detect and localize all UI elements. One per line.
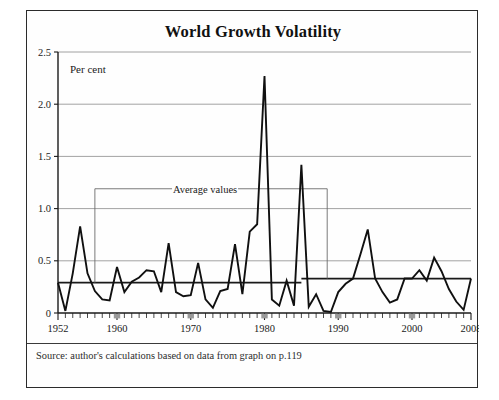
y-tick-label-0.5: 0.5 (38, 255, 51, 266)
x-tick-label-1980: 1980 (254, 323, 275, 334)
y-tick-label-1.5: 1.5 (38, 151, 51, 162)
x-tick-label-1970: 1970 (180, 323, 201, 334)
data-series-line (58, 76, 471, 312)
line-chart: 00.51.01.52.02.5195219601970198019902000… (27, 11, 479, 389)
source-divider (27, 343, 477, 344)
x-tick-label-1960: 1960 (107, 323, 128, 334)
y-tick-label-2.0: 2.0 (38, 99, 51, 110)
y-tick-label-1.0: 1.0 (38, 203, 51, 214)
unit-label: Per cent (70, 63, 106, 75)
x-tick-label-1990: 1990 (328, 323, 349, 334)
x-tick-label-2008: 2008 (461, 323, 480, 334)
annotation-label: Average values (173, 184, 237, 195)
x-tick-highlight-1960 (114, 314, 120, 319)
x-tick-label-2000: 2000 (402, 323, 423, 334)
x-tick-highlight-1970 (188, 314, 194, 319)
x-tick-highlight-2000 (409, 314, 415, 319)
x-tick-highlight-1990 (335, 314, 341, 319)
figure-panel: World Growth Volatility 00.51.01.52.02.5… (26, 10, 478, 388)
plot-area: 00.51.01.52.02.5195219601970198019902000… (27, 11, 479, 389)
x-tick-label-1952: 1952 (48, 323, 69, 334)
y-tick-label-0: 0 (46, 308, 51, 319)
source-note: Source: author's calculations based on d… (36, 350, 302, 361)
x-tick-highlight-1980 (261, 314, 267, 319)
y-tick-label-2.5: 2.5 (38, 47, 51, 58)
